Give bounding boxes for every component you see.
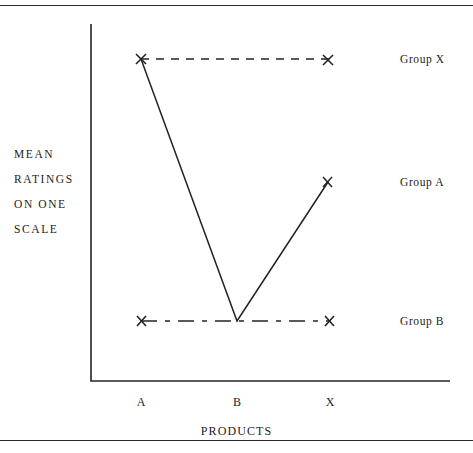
y-axis-label-line-4: SCALE: [14, 217, 88, 242]
y-axis-label-line-2: RATINGS: [14, 167, 88, 192]
legend-label-group-x: Group X: [400, 53, 470, 65]
marker-group-a-x: [323, 177, 332, 187]
marker-group-x-x: [323, 55, 333, 65]
legend-label-group-a: Group A: [400, 176, 470, 188]
figure-container: MEAN RATINGS ON ONE SCALE A B X PRODUCTS…: [0, 0, 473, 453]
y-axis-label-line-1: MEAN: [14, 142, 88, 167]
x-tick-label-a: A: [121, 395, 161, 410]
y-axis-label: MEAN RATINGS ON ONE SCALE: [14, 142, 88, 242]
x-tick-label-b: B: [217, 395, 257, 410]
y-axis-label-line-3: ON ONE: [14, 192, 88, 217]
legend-label-group-b: Group B: [400, 315, 470, 327]
axis-spine: [91, 24, 450, 381]
x-tick-label-x: X: [310, 395, 350, 410]
series-line-group-a: [141, 59, 328, 321]
x-axis-label: PRODUCTS: [0, 424, 473, 439]
